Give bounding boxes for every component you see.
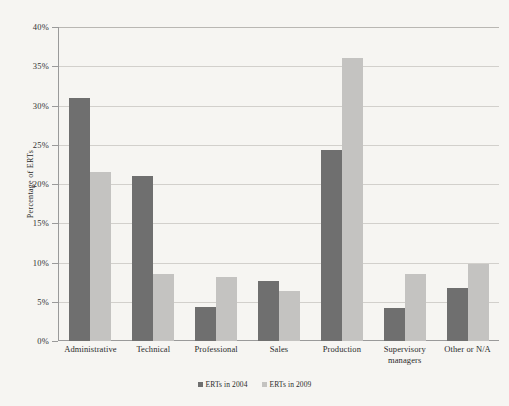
legend-label: ERTs in 2004	[206, 380, 248, 389]
bar[interactable]	[447, 288, 468, 341]
bar[interactable]	[279, 291, 300, 341]
y-axis-tick-label: 30%	[33, 101, 49, 111]
bar-group	[59, 27, 122, 341]
bar[interactable]	[405, 274, 426, 341]
y-axis-tick-label: 20%	[33, 179, 49, 189]
bar[interactable]	[153, 274, 174, 341]
bar[interactable]	[342, 58, 363, 341]
bar[interactable]	[132, 176, 153, 341]
x-axis-tick-label: Technical	[122, 344, 185, 365]
legend-swatch-2004	[198, 382, 203, 387]
y-axis-tick-label: 5%	[37, 297, 49, 307]
bar-group	[122, 27, 185, 341]
x-axis-tick-label: Professional	[185, 344, 248, 365]
y-axis-tick-label: 35%	[33, 61, 49, 71]
legend-item[interactable]: ERTs in 2009	[262, 380, 312, 389]
y-axis-tick-mark	[52, 341, 58, 342]
bar-group	[310, 27, 373, 341]
legend-label: ERTs in 2009	[270, 380, 312, 389]
x-axis-tick-label: Supervisory managers	[373, 344, 436, 365]
x-axis-tick-label: Administrative	[59, 344, 122, 365]
y-axis-labels: 0%5%10%15%20%25%30%35%40%	[0, 27, 58, 341]
bar[interactable]	[69, 98, 90, 341]
legend-item[interactable]: ERTs in 2004	[198, 380, 248, 389]
x-axis-tick-label: Production	[310, 344, 373, 365]
bar-group	[185, 27, 248, 341]
bar[interactable]	[195, 307, 216, 341]
y-axis-tick-label: 10%	[33, 258, 49, 268]
bar[interactable]	[216, 277, 237, 341]
bar[interactable]	[258, 281, 279, 341]
y-axis-tick-label: 40%	[33, 22, 49, 32]
x-axis-tick-label: Other or N/A	[436, 344, 499, 365]
y-axis-tick-label: 15%	[33, 218, 49, 228]
bar-groups	[59, 27, 499, 341]
bar-group	[248, 27, 311, 341]
x-axis-labels: AdministrativeTechnicalProfessionalSales…	[59, 344, 499, 365]
legend-swatch-2009	[262, 382, 267, 387]
y-axis-tick-label: 25%	[33, 140, 49, 150]
bar[interactable]	[468, 264, 489, 341]
x-axis-tick-label: Sales	[248, 344, 311, 365]
y-axis-tick-label: 0%	[37, 336, 49, 346]
chart-legend: ERTs in 2004ERTs in 2009	[0, 380, 509, 389]
bar[interactable]	[321, 150, 342, 341]
bar[interactable]	[384, 308, 405, 341]
bar-chart: Percentage of ERTs 0%5%10%15%20%25%30%35…	[0, 0, 509, 406]
bar[interactable]	[90, 172, 111, 341]
bar-group	[436, 27, 499, 341]
bar-group	[373, 27, 436, 341]
